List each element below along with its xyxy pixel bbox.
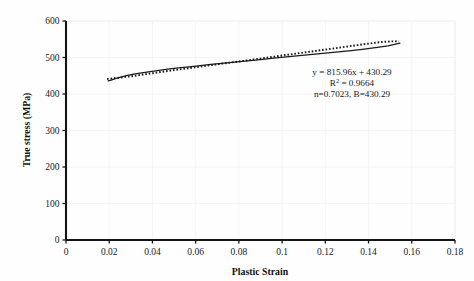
y-axis-tick-label: 200 bbox=[45, 162, 60, 172]
chart-background bbox=[0, 0, 474, 281]
y-axis-tick-label: 400 bbox=[45, 89, 60, 99]
y-axis-tick-label: 600 bbox=[45, 16, 60, 26]
x-axis-tick-label: 0.1 bbox=[276, 247, 288, 257]
y-axis-tick-label: 0 bbox=[55, 235, 60, 245]
x-axis-title: Plastic Strain bbox=[232, 266, 289, 277]
true-stress-plastic-strain-chart: 0100200300400500600 00.020.040.060.080.1… bbox=[0, 0, 474, 281]
chart-container: 0100200300400500600 00.020.040.060.080.1… bbox=[0, 0, 474, 281]
x-axis-tick-label: 0.04 bbox=[144, 247, 161, 257]
x-axis-tick-label: 0.08 bbox=[231, 247, 248, 257]
x-axis-tick-label: 0.02 bbox=[101, 247, 118, 257]
r-squared-value: = 0.9664 bbox=[339, 78, 374, 88]
x-axis-tick-label: 0 bbox=[64, 247, 69, 257]
y-axis-tick-label: 500 bbox=[45, 53, 60, 63]
y-axis-title: True stress (MPa) bbox=[21, 93, 33, 168]
annotation-equation-line: y = 815.96x + 430.29 bbox=[312, 67, 392, 77]
x-axis-tick-label: 0.16 bbox=[403, 247, 420, 257]
x-axis-tick-label: 0.12 bbox=[317, 247, 334, 257]
x-axis-tick-label: 0.14 bbox=[360, 247, 377, 257]
x-axis-tick-label: 0.18 bbox=[447, 247, 464, 257]
annotation-parameters-line: n=0.7023, B=430.29 bbox=[314, 89, 391, 99]
y-axis-tick-label: 100 bbox=[45, 199, 60, 209]
x-axis-tick-label: 0.06 bbox=[187, 247, 204, 257]
y-axis-tick-label: 300 bbox=[45, 126, 60, 136]
